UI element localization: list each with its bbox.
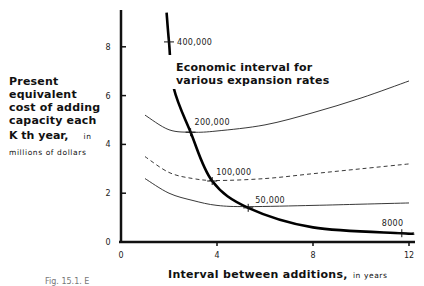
x-tick-label: 8	[310, 251, 315, 260]
y-label-line-3: capacity each	[9, 114, 113, 127]
y-tick-label: 0	[105, 238, 110, 247]
curve-label: 400,000	[177, 38, 212, 47]
curve-label: 100,000	[216, 168, 251, 177]
x-label-main: Interval between additions,	[168, 268, 348, 281]
x-axis-label: Interval between additions, in years	[168, 263, 388, 282]
series-line-100-000	[145, 157, 409, 181]
x-label-unit: in years	[353, 271, 388, 280]
x-tick-label: 0	[118, 251, 123, 260]
figure-caption: Fig. 15.1. E	[45, 277, 89, 286]
curve-label: 200,000	[195, 118, 230, 127]
curve-label: 50,000	[255, 196, 285, 205]
y-axis-label: Present equivalent cost of adding capaci…	[9, 75, 113, 159]
x-ticks: 04812	[118, 242, 414, 260]
x-tick-label: 4	[214, 251, 219, 260]
annotation-line-1: Economic interval for	[176, 61, 330, 74]
y-label-unit-in: in	[84, 132, 92, 141]
y-tick-label: 8	[105, 43, 110, 52]
y-label-line-1: Present equivalent	[9, 75, 113, 101]
y-label-line-2: cost of adding	[9, 101, 113, 114]
axes	[119, 10, 415, 243]
y-tick-label: 2	[105, 189, 110, 198]
x-tick-label: 12	[404, 251, 414, 260]
y-label-unit: millions of dollars	[9, 148, 86, 157]
curve-label: 8000	[382, 219, 404, 228]
y-label-line-4: K th year,	[9, 129, 68, 142]
economic-interval-annotation: Economic interval for various expansion …	[176, 61, 330, 87]
annotation-line-2: various expansion rates	[176, 74, 330, 87]
